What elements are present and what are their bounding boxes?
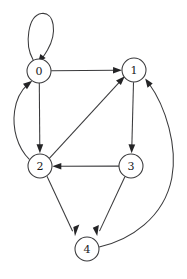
graph-diagram: 0 1 2 3 4 bbox=[0, 0, 187, 279]
node-1[interactable]: 1 bbox=[122, 58, 146, 82]
edge-2-to-0[interactable] bbox=[14, 81, 32, 160]
edge-1-to-3-arrowhead bbox=[129, 144, 136, 153]
node-2-label: 2 bbox=[37, 160, 44, 173]
node-1-label: 1 bbox=[131, 64, 138, 77]
edge-1-to-3[interactable] bbox=[129, 82, 136, 153]
edge-2-to-1-path bbox=[49, 81, 121, 159]
edge-1-to-3-path bbox=[132, 82, 134, 148]
edge-2-to-4[interactable] bbox=[47, 176, 79, 236]
edge-3-to-4-path bbox=[100, 177, 126, 232]
edge-2-to-4-path bbox=[47, 176, 73, 231]
node-3-label: 3 bbox=[128, 160, 135, 173]
edge-0-to-1-path bbox=[51, 70, 116, 71]
node-4[interactable]: 4 bbox=[75, 237, 99, 261]
node-0[interactable]: 0 bbox=[27, 59, 51, 83]
edge-layer bbox=[14, 13, 173, 247]
node-4-label: 4 bbox=[84, 243, 91, 256]
node-0-label: 0 bbox=[36, 65, 43, 78]
edge-0-to-2-path bbox=[39, 83, 40, 148]
node-2[interactable]: 2 bbox=[28, 154, 52, 178]
edge-2-to-1[interactable] bbox=[49, 76, 125, 158]
edge-0-to-1[interactable] bbox=[51, 67, 122, 74]
edge-3-to-2-arrowhead bbox=[52, 163, 61, 170]
edge-2-to-0-path bbox=[14, 84, 30, 159]
edge-2-to-4-arrowhead bbox=[73, 224, 79, 236]
edge-0-to-2[interactable] bbox=[37, 83, 44, 153]
edge-0-to-1-arrowhead bbox=[113, 67, 122, 74]
edge-3-to-4[interactable] bbox=[93, 177, 125, 237]
edge-0-to-2-arrowhead bbox=[37, 144, 44, 153]
node-3[interactable]: 3 bbox=[119, 154, 143, 178]
edge-3-to-2[interactable] bbox=[52, 163, 119, 170]
node-layer: 0 1 2 3 4 bbox=[27, 58, 146, 261]
edge-3-to-4-arrowhead bbox=[93, 225, 99, 236]
edge-0-to-0[interactable] bbox=[28, 13, 53, 63]
